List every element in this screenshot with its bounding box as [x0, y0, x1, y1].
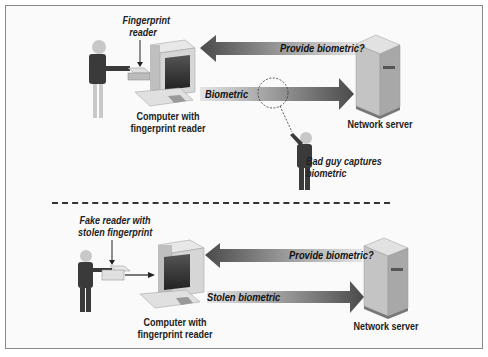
scenario-divider [52, 202, 390, 204]
server-label-top: Network server [347, 118, 413, 130]
response-label-bottom: Stolen biometric [207, 291, 280, 303]
computer-label-bottom: Computer with fingerprint reader [134, 316, 216, 340]
response-label-top: Biometric [205, 88, 248, 100]
server-label-bottom: Network server [353, 320, 419, 332]
impostor-figure-icon [78, 250, 112, 312]
user-figure-icon [89, 40, 130, 118]
attacker-label: Bad guy captures biometric [306, 155, 380, 179]
fake-reader-label: Fake reader with stolen fingerprint [78, 214, 152, 238]
request-label-top: Provide biometric? [280, 42, 365, 54]
request-label-bottom: Provide biometric? [289, 249, 374, 261]
computer-label-top: Computer with fingerprint reader [127, 110, 209, 134]
fake-reader-icon [102, 240, 155, 280]
diagram-graphics [0, 0, 488, 357]
fingerprint-reader-label: Fingerprint reader [123, 14, 164, 38]
fingerprint-reader-icon [128, 40, 150, 80]
